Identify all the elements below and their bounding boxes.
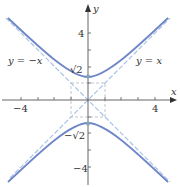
x-axis-arrow-icon	[170, 97, 177, 103]
y-tick-label-sqrt2: √2	[70, 64, 83, 75]
asymptote-label-x: y = x	[135, 55, 162, 66]
vertex-dot-top	[86, 75, 90, 79]
x-tick-label-4: 4	[152, 103, 158, 114]
y-tick-label-neg-sqrt2: −√2	[64, 130, 85, 141]
y-axis-label: y	[92, 3, 99, 14]
x-axis-label: x	[171, 86, 177, 97]
vertex-dot-bottom	[86, 122, 90, 126]
hyperbola-graph: x y −4 4 4 √2 −√2 −4 y = −x y = x	[0, 0, 180, 187]
y-axis-arrow-icon	[85, 4, 91, 12]
x-tick-label-neg4: −4	[13, 103, 28, 114]
y-tick-label-neg4: −4	[73, 163, 88, 174]
asymptote-label-neg-x: y = −x	[7, 55, 43, 66]
y-tick-label-4: 4	[78, 28, 84, 39]
